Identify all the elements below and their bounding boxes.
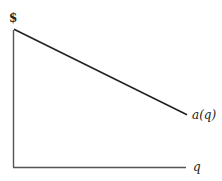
diagram-canvas: $ a(q) q [0,0,222,181]
curve-a-of-q [14,29,187,114]
x-axis-label: q [193,160,201,174]
curve-label: a(q) [192,108,217,122]
y-axis-label: $ [9,11,17,25]
